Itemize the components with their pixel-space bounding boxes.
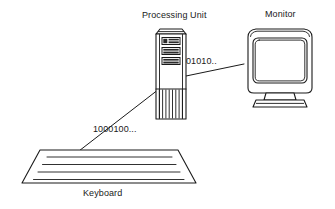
label-data-keyboard-to-processing-unit: 1000100... xyxy=(93,124,137,135)
label-data-processing-unit-to-monitor: 01010.. xyxy=(186,56,217,67)
drive-bay-3 xyxy=(162,58,180,65)
drive-bay-2 xyxy=(162,48,180,55)
monitor-screen xyxy=(253,38,307,83)
tower-computer-icon xyxy=(156,29,186,119)
label-keyboard: Keyboard xyxy=(83,188,122,199)
crt-monitor-icon xyxy=(248,29,312,107)
drive-bay-1 xyxy=(162,38,180,45)
label-monitor: Monitor xyxy=(265,9,296,20)
diagram-canvas: Processing Unit Monitor Keyboard 01010..… xyxy=(0,0,335,209)
keyboard-icon xyxy=(22,150,196,183)
label-processing-unit: Processing Unit xyxy=(142,10,207,21)
diagram-illustration xyxy=(0,0,335,209)
monitor-neck xyxy=(264,93,296,100)
